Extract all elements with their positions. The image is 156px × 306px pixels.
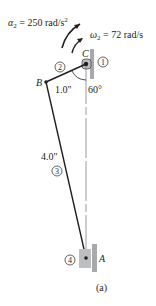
figure-caption: (a) [96,282,107,294]
ab-length-label: 4.0" [41,151,58,162]
ground-plate-a [92,244,97,272]
svg-text:3: 3 [55,167,59,176]
link-1-tag: 1 [98,57,108,67]
mechanism-diagram: α2 = 250 rad/s2 ω2 = 72 rad/s C B A 1 2 … [0,0,156,306]
link-2 [46,64,86,82]
point-a-label: A [98,253,106,264]
joint-b [44,80,48,84]
bc-length-label: 1.0" [55,84,72,95]
svg-text:2: 2 [58,63,62,72]
omega-label: ω2 = 72 rad/s [90,29,143,42]
alpha-label: α2 = 250 rad/s2 [8,16,68,30]
joint-a [84,256,88,260]
link-3-tag: 3 [52,166,62,176]
angle-arc [72,71,86,80]
alpha-arrow-icon [62,24,80,48]
svg-text:1: 1 [101,58,105,67]
point-c-label: C [82,48,89,59]
link-4-tag: 4 [65,255,75,265]
svg-text:4: 4 [68,256,72,265]
point-b-label: B [36,77,42,88]
joint-c [84,62,88,66]
angle-label: 60° [88,84,102,95]
link-2-tag: 2 [55,62,65,72]
